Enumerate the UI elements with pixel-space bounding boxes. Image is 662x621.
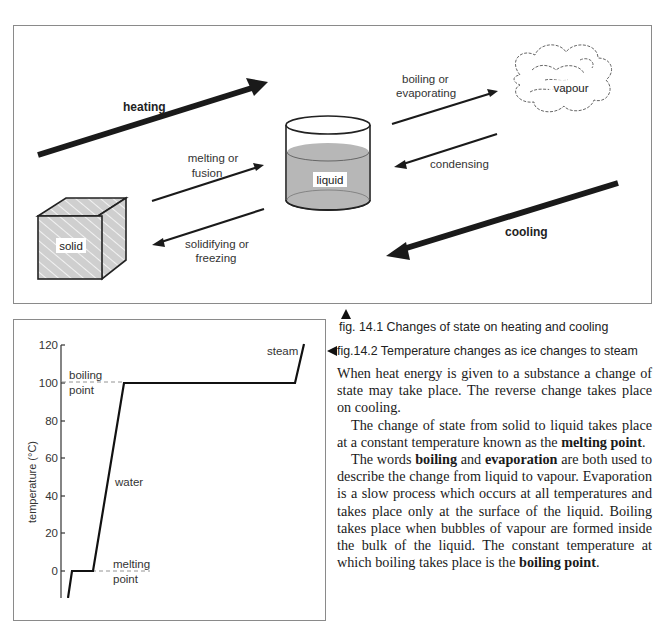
p2-end: . (642, 434, 646, 450)
melting-annotation-line2: point (113, 573, 139, 585)
y-tick-20: 20 (45, 527, 58, 539)
vapour-label: vapour (553, 82, 588, 94)
y-axis-label: temperature (°C) (26, 441, 38, 523)
y-tick-60: 60 (45, 452, 58, 464)
cooling-arrow (386, 183, 618, 260)
heating-label: heating (123, 100, 166, 114)
figure-14-1-caption: fig. 14.1 Changes of state on heating an… (339, 320, 608, 334)
y-tick-80: 80 (45, 415, 58, 427)
cooling-label: cooling (505, 225, 548, 239)
term-evaporation: evaporation (485, 451, 558, 467)
steam-annotation: steam (267, 345, 298, 357)
term-boiling: boiling (415, 451, 457, 467)
paragraph-1: When heat energy is given to a substance… (337, 365, 652, 417)
term-melting-point: melting point (561, 434, 642, 450)
boiling-annotation-line1: boiling (69, 369, 102, 381)
liquid-label: liquid (317, 174, 344, 186)
boiling-label-line2: evaporating (396, 87, 456, 99)
y-tick-100: 100 (39, 377, 58, 389)
paragraph-3: The words boiling and evaporation are bo… (337, 451, 652, 571)
condensing-label: condensing (430, 158, 489, 170)
liquid-beaker-icon (286, 116, 370, 210)
boiling-annotation-line2: point (69, 384, 95, 396)
y-tick-0: 0 (52, 565, 58, 577)
body-text: When heat energy is given to a substance… (337, 365, 652, 571)
caption-up-pointer-icon (340, 308, 352, 320)
paragraph-2: The change of state from solid to liquid… (337, 417, 652, 451)
boiling-label-line1: boiling or (402, 73, 449, 85)
term-boiling-point: boiling point (519, 554, 596, 570)
water-annotation: water (114, 476, 143, 488)
figure-14-2-caption: fig.14.2 Temperature changes as ice chan… (337, 344, 638, 358)
p3-text-a: The words (351, 451, 415, 467)
p3-text-c: and (457, 451, 485, 467)
melting-label-line2: fusion (192, 167, 223, 179)
solidifying-label-line1: solidifying or (185, 238, 249, 250)
y-tick-40: 40 (45, 490, 58, 502)
solid-label: solid (59, 240, 83, 252)
p3-text-e: are both used to describe the change fro… (337, 451, 652, 570)
melting-label-line1: melting or (188, 152, 239, 164)
figure-14-1-diagram: heating cooling melting or fusion solidi… (0, 0, 662, 310)
p3-end: . (596, 554, 600, 570)
temperature-curve (68, 344, 304, 598)
y-tick-120: 120 (39, 339, 58, 351)
temperature-graph: 120 100 80 60 40 20 0 temperature (°C) b… (0, 300, 330, 598)
solidifying-label-line2: freezing (196, 252, 237, 264)
melting-annotation-line1: melting (113, 558, 150, 570)
heating-arrow (38, 78, 268, 155)
vapour-cloud-icon (514, 45, 612, 112)
